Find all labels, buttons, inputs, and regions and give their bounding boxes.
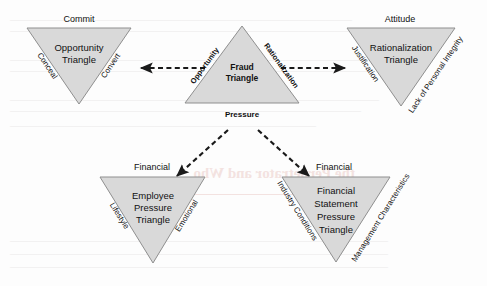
fraud-triangle-figure: ―――――――――――――――――――――――――――――――――――――― ―… <box>0 0 487 286</box>
svg-text:――――――――――――――――――――――――――――――: ――――――――――――――――――――――――――――――――――――――― <box>9 105 362 115</box>
rationalization-triangle-core-line2: Triangle <box>384 54 418 65</box>
financial-statement-pressure-triangle-core-line2: Statement <box>314 198 358 209</box>
financial-statement-pressure-triangle-core-line3: Pressure <box>317 211 355 222</box>
rationalization-triangle-top-label: Attitude <box>385 14 416 24</box>
diagram-canvas: ―――――――――――――――――――――――――――――――――――――― ―… <box>0 0 487 286</box>
financial-statement-pressure-triangle-top-label: Financial <box>316 162 352 172</box>
svg-text:――――――――――――――――――――――――――――――: ―――――――――――――――――――――――――――――――――― <box>9 120 317 130</box>
opportunity-triangle-top-label: Commit <box>64 14 95 24</box>
svg-text:――――――――――――――――――――――――――――――: ―――――――――――――――――――――――――――――――――――――― <box>9 14 353 24</box>
employee-pressure-triangle-core-line3: Triangle <box>136 214 170 225</box>
opportunity-triangle-core-line1: Opportunity <box>54 42 103 53</box>
employee-pressure-triangle-core-line1: Employee <box>132 190 174 201</box>
financial-statement-pressure-triangle-core-line4: Triangle <box>319 224 353 235</box>
fraud-triangle-core-line1: Fraud <box>230 62 254 72</box>
opportunity-triangle-core-line2: Triangle <box>62 54 96 65</box>
rationalization-triangle-core-line1: Rationalization <box>370 42 432 53</box>
svg-text:――――――――――――――――――――――――――――――: ――――――――――――――――――――――――――――――――――――――――… <box>9 261 389 271</box>
fraud-triangle-core-line2: Triangle <box>226 73 259 83</box>
employee-pressure-triangle-core-line2: Pressure <box>134 202 172 213</box>
fraud-triangle-bottom-edge-label: Pressure <box>225 110 260 119</box>
employee-pressure-triangle-top-label: Financial <box>134 162 170 172</box>
financial-statement-pressure-triangle-core-line1: Financial <box>317 185 355 196</box>
